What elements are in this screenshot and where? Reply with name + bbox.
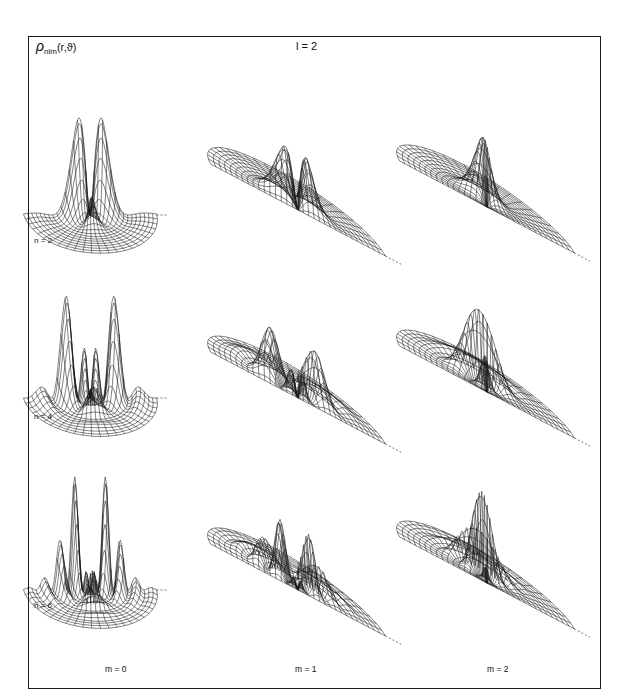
- surface-plots-grid: [0, 0, 617, 699]
- axis-dash: [385, 256, 401, 264]
- surface-plot-n2-m1: [208, 146, 402, 264]
- axis-dash: [574, 438, 590, 446]
- surface-plot-n6-m1: [208, 519, 402, 644]
- axis-dash: [385, 636, 401, 644]
- surface-plot-n4-m0: [24, 296, 169, 436]
- axis-dash: [574, 253, 590, 261]
- axis-dash: [574, 629, 590, 637]
- surface-plot-n4-m2: [397, 309, 591, 446]
- surface-plot-n6-m0: [24, 477, 169, 629]
- axis-dash: [385, 444, 401, 452]
- surface-plot-n2-m0: [24, 118, 169, 253]
- surface-plot-n4-m1: [208, 327, 402, 452]
- surface-plot-n6-m2: [397, 491, 591, 637]
- surface-plot-n2-m2: [397, 137, 591, 261]
